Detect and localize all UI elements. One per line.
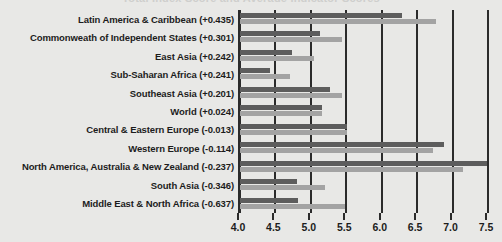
y-axis-category-labels: Latin America & Caribbean (+0.435)Common… [0,10,234,213]
bar-row [240,28,488,46]
chart-title: Total Index Score and Average Indicator … [0,0,502,2]
x-axis-tick [308,213,310,220]
y-axis-label: World (+0.024) [0,102,234,120]
bar-light-series [240,74,290,79]
x-axis-tick [414,213,416,220]
x-axis-tick [450,213,452,220]
bar-row [240,139,488,157]
y-axis-label: Commonweath of Independent States (+0.30… [0,28,234,46]
y-axis-label: Latin America & Caribbean (+0.435) [0,10,234,28]
y-axis-label: East Asia (+0.242) [0,47,234,65]
bar-light-series [240,37,342,42]
bar-row [240,176,488,194]
bar-light-series [240,204,345,209]
x-axis-tick-label: 4.0 [231,221,246,233]
chart-root: Total Index Score and Average Indicator … [0,0,502,242]
bar-rows [240,10,488,213]
bar-row [240,102,488,120]
x-axis-tick-label: 7.5 [479,221,494,233]
bar-dark-series [240,124,347,129]
bar-dark-series [240,50,292,55]
bar-row [240,10,488,28]
x-axis-tick-label: 4.5 [266,221,281,233]
y-axis-label: North America, Australia & New Zealand (… [0,158,234,176]
bar-light-series [240,56,314,61]
bar-row [240,195,488,213]
bar-dark-series [240,161,487,166]
bar-dark-series [240,142,444,147]
bar-light-series [240,130,347,135]
y-axis-label: Southeast Asia (+0.201) [0,84,234,102]
bar-dark-series [240,198,298,203]
bar-light-series [240,111,322,116]
bar-row [240,65,488,83]
plot-area [238,10,488,213]
bar-dark-series [240,105,322,110]
x-axis-tick [237,213,239,220]
y-axis-label: Western Europe (-0.114) [0,139,234,157]
bar-light-series [240,93,342,98]
x-axis-tick [485,213,487,220]
bar-row [240,84,488,102]
x-axis-tick [272,213,274,220]
bar-light-series [240,185,325,190]
bar-light-series [240,19,436,24]
bar-dark-series [240,31,320,36]
x-axis-tick [343,213,345,220]
y-axis-label: Middle East & North Africa (-0.637) [0,195,234,213]
bar-dark-series [240,13,402,18]
x-axis-tick [379,213,381,220]
bar-light-series [240,167,463,172]
y-axis-label: Sub-Saharan Africa (+0.241) [0,65,234,83]
bar-row [240,158,488,176]
y-axis-label: South Asia (-0.346) [0,176,234,194]
x-axis-tick-label: 6.0 [372,221,387,233]
bar-dark-series [240,68,270,73]
bar-row [240,47,488,65]
x-axis: 4.04.55.05.56.06.57.07.5 [238,213,486,242]
bar-row [240,121,488,139]
bar-dark-series [240,179,297,184]
x-axis-tick-label: 7.0 [443,221,458,233]
x-axis-tick-label: 5.5 [337,221,352,233]
x-axis-tick-label: 6.5 [408,221,423,233]
bar-dark-series [240,87,330,92]
bar-light-series [240,148,433,153]
y-axis-label: Central & Eastern Europe (-0.013) [0,121,234,139]
x-axis-tick-label: 5.0 [302,221,317,233]
